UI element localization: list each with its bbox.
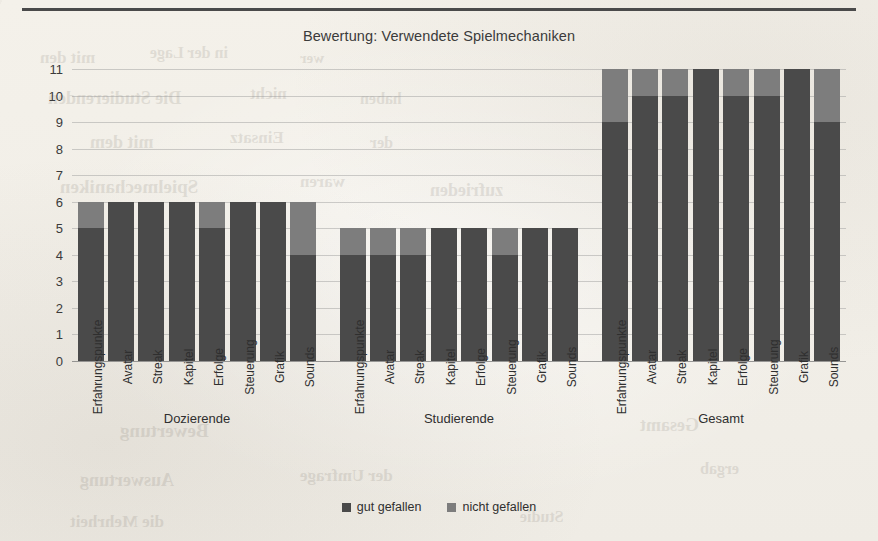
bar-segment-gut-gefallen[interactable] — [522, 228, 548, 361]
category-axis-label: Avatar — [645, 350, 659, 384]
bar-segment-gut-gefallen[interactable] — [169, 202, 195, 361]
category-axis-label: Erfahrungspunkte — [353, 320, 367, 415]
stacked-bar[interactable]: Streak — [400, 228, 426, 361]
category-axis-label: Grafik — [273, 351, 287, 383]
stacked-bar[interactable]: Grafik — [784, 69, 810, 361]
bar-group: ErfahrungspunkteAvatarStreakKapitelErfol… — [596, 69, 846, 361]
bar-segment-gut-gefallen[interactable] — [108, 202, 134, 361]
stacked-bar[interactable]: Grafik — [522, 228, 548, 361]
bar-segment-gut-gefallen[interactable] — [230, 202, 256, 361]
category-axis-label: Erfahrungspunkte — [615, 320, 629, 415]
stacked-bar[interactable]: Streak — [662, 69, 688, 361]
bar-segment-gut-gefallen[interactable] — [370, 255, 396, 361]
legend-item[interactable]: gut gefallen — [342, 500, 422, 514]
stacked-bar[interactable]: Avatar — [108, 202, 134, 361]
chart-legend: gut gefallennicht gefallen — [0, 500, 878, 514]
bar-segment-nicht-gefallen[interactable] — [723, 69, 749, 96]
bar-segment-nicht-gefallen[interactable] — [662, 69, 688, 96]
category-axis-label: Erfolge — [474, 348, 488, 386]
legend-label: gut gefallen — [357, 500, 422, 514]
stacked-bar[interactable]: Steuerung — [230, 202, 256, 361]
category-axis-label: Sounds — [827, 347, 841, 388]
bar-segment-nicht-gefallen[interactable] — [602, 69, 628, 122]
bar-segment-nicht-gefallen[interactable] — [78, 202, 104, 229]
plot-area: 01234567891011ErfahrungspunkteAvatarStre… — [72, 69, 846, 361]
category-axis-label: Streak — [413, 350, 427, 385]
y-axis-tick-label: 2 — [56, 300, 63, 315]
bar-segment-gut-gefallen[interactable] — [754, 96, 780, 361]
y-axis-tick-label: 10 — [49, 88, 63, 103]
category-axis-label: Grafik — [535, 351, 549, 383]
stacked-bar[interactable]: Erfahrungspunkte — [602, 69, 628, 361]
legend-item[interactable]: nicht gefallen — [447, 500, 536, 514]
y-axis-tick-label: 8 — [56, 141, 63, 156]
legend-label: nicht gefallen — [462, 500, 536, 514]
y-axis-tick-label: 6 — [56, 194, 63, 209]
bar-segment-gut-gefallen[interactable] — [461, 228, 487, 361]
bar-segment-nicht-gefallen[interactable] — [814, 69, 840, 122]
stacked-bar[interactable]: Sounds — [552, 228, 578, 361]
category-axis-label: Sounds — [303, 347, 317, 388]
bar-segment-gut-gefallen[interactable] — [260, 202, 286, 361]
bar-segment-nicht-gefallen[interactable] — [370, 228, 396, 255]
bar-segment-nicht-gefallen[interactable] — [492, 228, 518, 255]
stacked-bar[interactable]: Kapitel — [169, 202, 195, 361]
y-axis-tick-label: 7 — [56, 168, 63, 183]
bar-segment-gut-gefallen[interactable] — [814, 122, 840, 361]
stacked-bar[interactable]: Sounds — [290, 202, 316, 361]
bar-segment-gut-gefallen[interactable] — [723, 96, 749, 361]
stacked-bar[interactable]: Streak — [138, 202, 164, 361]
category-axis-label: Sounds — [565, 347, 579, 388]
category-axis-label: Erfolge — [212, 348, 226, 386]
stacked-bar[interactable]: Kapitel — [431, 228, 457, 361]
bar-segment-nicht-gefallen[interactable] — [754, 69, 780, 96]
bar-segment-nicht-gefallen[interactable] — [199, 202, 225, 229]
bar-segment-gut-gefallen[interactable] — [431, 228, 457, 361]
category-axis-label: Steuerung — [767, 339, 781, 394]
stacked-bar[interactable]: Erfolge — [199, 202, 225, 361]
y-axis-tick-label: 0 — [56, 354, 63, 369]
bar-segment-gut-gefallen[interactable] — [662, 96, 688, 361]
category-axis-label: Erfahrungspunkte — [91, 320, 105, 415]
stacked-bar[interactable]: Steuerung — [492, 228, 518, 361]
category-axis-label: Avatar — [121, 350, 135, 384]
stacked-bar[interactable]: Steuerung — [754, 69, 780, 361]
bar-segment-gut-gefallen[interactable] — [693, 69, 719, 361]
chart-title: Bewertung: Verwendete Spielmechaniken — [0, 28, 878, 44]
category-axis-label: Avatar — [383, 350, 397, 384]
stacked-bar[interactable]: Avatar — [370, 228, 396, 361]
stacked-bar[interactable]: Erfolge — [723, 69, 749, 361]
y-axis-tick-label: 1 — [56, 327, 63, 342]
y-axis-tick-label: 11 — [50, 62, 64, 77]
group-axis-label: Gesamt — [596, 411, 846, 426]
bar-group: ErfahrungspunkteAvatarStreakKapitelErfol… — [72, 69, 322, 361]
y-axis-tick-label: 4 — [56, 247, 63, 262]
stacked-bar[interactable]: Kapitel — [693, 69, 719, 361]
bar-segment-nicht-gefallen[interactable] — [632, 69, 658, 96]
stacked-bar[interactable]: Avatar — [632, 69, 658, 361]
bar-segment-gut-gefallen[interactable] — [138, 202, 164, 361]
bar-segment-gut-gefallen[interactable] — [632, 96, 658, 361]
bar-segment-gut-gefallen[interactable] — [199, 228, 225, 361]
category-axis-label: Erfolge — [736, 348, 750, 386]
bar-segment-nicht-gefallen[interactable] — [290, 202, 316, 255]
category-axis-label: Steuerung — [505, 339, 519, 394]
bar-segment-nicht-gefallen[interactable] — [340, 228, 366, 255]
y-axis-tick-label: 9 — [56, 115, 63, 130]
category-axis-label: Kapitel — [444, 349, 458, 386]
bar-segment-gut-gefallen[interactable] — [784, 69, 810, 361]
y-axis-tick-label: 3 — [56, 274, 63, 289]
group-axis-label: Dozierende — [72, 411, 322, 426]
bar-segment-gut-gefallen[interactable] — [290, 255, 316, 361]
legend-swatch-icon — [342, 503, 351, 512]
bar-segment-gut-gefallen[interactable] — [400, 255, 426, 361]
bar-segment-gut-gefallen[interactable] — [552, 228, 578, 361]
stacked-bar[interactable]: Sounds — [814, 69, 840, 361]
category-axis-label: Grafik — [797, 351, 811, 383]
stacked-bar[interactable]: Grafik — [260, 202, 286, 361]
stacked-bar[interactable]: Erfahrungspunkte — [78, 202, 104, 361]
category-axis-label: Steuerung — [243, 339, 257, 394]
bar-segment-nicht-gefallen[interactable] — [400, 228, 426, 255]
stacked-bar[interactable]: Erfahrungspunkte — [340, 228, 366, 361]
stacked-bar[interactable]: Erfolge — [461, 228, 487, 361]
